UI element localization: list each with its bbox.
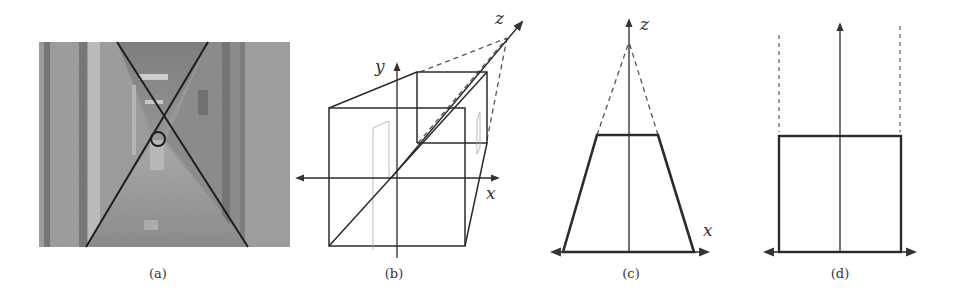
- figure: y x z z x (a) (b) (c) (d): [0, 0, 953, 298]
- panel-b-perspective-box: [297, 22, 522, 258]
- panel-a-photo: [39, 42, 290, 247]
- caption-b: (b): [385, 266, 403, 281]
- panel-b-y-label: y: [375, 56, 385, 76]
- panel-b-x-label: x: [486, 183, 496, 203]
- panel-c-z-label: z: [640, 14, 649, 34]
- caption-a: (a): [149, 266, 167, 281]
- panel-b-z-label: z: [495, 8, 504, 28]
- panel-c-x-label: x: [703, 220, 713, 240]
- caption-d: (d): [831, 266, 849, 281]
- caption-c: (c): [622, 266, 639, 281]
- panel-c-trapezoid: [552, 20, 708, 252]
- panel-d-rectangle: [765, 24, 915, 252]
